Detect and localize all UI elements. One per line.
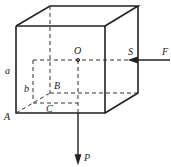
- arrowhead-f-icon: [130, 58, 137, 63]
- label-c: C: [46, 104, 53, 114]
- label-a: a: [5, 66, 10, 76]
- label-s: S: [128, 47, 133, 57]
- label-p: P: [84, 153, 90, 163]
- front-face: [16, 26, 105, 113]
- label-o: O: [74, 46, 81, 56]
- cube-force-diagram: O S F a b B C A P: [0, 0, 171, 167]
- label-a-point: A: [4, 112, 10, 122]
- label-b-point: B: [54, 81, 60, 91]
- label-f: F: [162, 47, 168, 57]
- label-b: b: [24, 84, 29, 94]
- arrowhead-p-icon: [76, 155, 81, 163]
- top-face: [16, 6, 138, 26]
